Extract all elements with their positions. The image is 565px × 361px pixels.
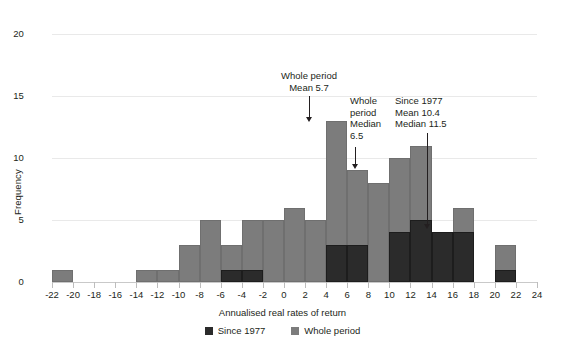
x-tick--8	[200, 282, 201, 288]
bar-whole-period	[52, 270, 73, 282]
bar-whole-period	[136, 270, 157, 282]
annotation-since-1977-stats: Since 1977 Mean 10.4 Median 11.5	[395, 95, 485, 130]
x-tick--18	[94, 282, 95, 288]
bar-whole-period	[179, 245, 200, 282]
annotation-whole-period-median: Whole period Median 6.5	[350, 95, 390, 141]
gridline-10	[52, 158, 537, 159]
x-axis-title: Annualised real rates of return	[0, 307, 565, 318]
gridline-20	[52, 34, 537, 35]
histogram-chart: Frequency 20 15 10 5 0 -22-20-18-16-14-1…	[0, 0, 565, 361]
legend-item-since-1977: Since 1977	[205, 325, 266, 336]
bar-whole-period	[200, 220, 221, 282]
axis-line-0	[52, 282, 537, 283]
y-tick-label-5: 5	[0, 215, 24, 225]
legend: Since 1977 Whole period	[0, 325, 565, 336]
bar-since-1977	[326, 245, 347, 282]
y-tick-label-10: 10	[0, 153, 24, 163]
x-tick--22	[52, 282, 53, 288]
y-tick-label-15: 15	[0, 91, 24, 101]
legend-label-whole-period: Whole period	[304, 325, 360, 336]
x-tick-6	[347, 282, 348, 288]
bar-since-1977	[242, 270, 263, 282]
bar-since-1977	[389, 232, 410, 282]
bar-whole-period	[305, 220, 326, 282]
x-tick--4	[242, 282, 243, 288]
bar-since-1977	[410, 220, 431, 282]
x-tick-2	[305, 282, 306, 288]
bar-since-1977	[453, 232, 474, 282]
y-tick-label-20: 20	[0, 29, 24, 39]
x-tick--2	[263, 282, 264, 288]
bar-whole-period	[157, 270, 178, 282]
legend-swatch-whole-period	[291, 327, 299, 335]
x-tick-12	[410, 282, 411, 288]
x-tick-18	[474, 282, 475, 288]
x-tick--14	[136, 282, 137, 288]
bar-since-1977	[347, 245, 368, 282]
x-tick-4	[326, 282, 327, 288]
x-tick-20	[495, 282, 496, 288]
x-tick--10	[179, 282, 180, 288]
legend-swatch-since-1977	[205, 327, 213, 335]
x-tick--20	[73, 282, 74, 288]
legend-item-whole-period: Whole period	[291, 325, 360, 336]
bar-since-1977	[432, 232, 453, 282]
bar-whole-period	[284, 208, 305, 282]
legend-label-since-1977: Since 1977	[218, 325, 266, 336]
y-tick-label-0: 0	[0, 277, 24, 287]
x-tick--6	[221, 282, 222, 288]
x-tick--12	[157, 282, 158, 288]
x-tick-8	[368, 282, 369, 288]
x-tick-22	[516, 282, 517, 288]
x-tick-14	[432, 282, 433, 288]
bar-since-1977	[495, 270, 516, 282]
x-tick-0	[284, 282, 285, 288]
x-tick-label-24: 24	[524, 289, 550, 300]
x-tick-24	[537, 282, 538, 288]
x-tick-10	[389, 282, 390, 288]
bar-whole-period	[263, 220, 284, 282]
bar-whole-period	[368, 183, 389, 282]
annotation-whole-period-mean: Whole period Mean 5.7	[243, 70, 375, 93]
x-tick-16	[453, 282, 454, 288]
bar-since-1977	[221, 270, 242, 282]
x-tick--16	[115, 282, 116, 288]
